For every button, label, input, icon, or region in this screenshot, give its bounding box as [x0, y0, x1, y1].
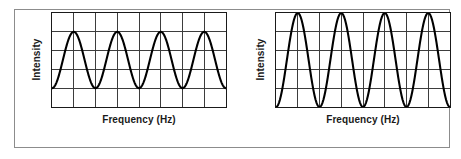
waveform-svg-left — [52, 13, 226, 107]
y-axis-label-left: Intensity — [27, 10, 45, 108]
figure-frame: Intensity Frequency (Hz) Intensity Frequ… — [14, 9, 450, 148]
x-axis-label-left: Frequency (Hz) — [51, 114, 227, 125]
chart-panel-left: Intensity Frequency (Hz) — [27, 10, 235, 147]
x-axis-label-right: Frequency (Hz) — [275, 114, 451, 125]
plot-area-left — [51, 12, 227, 108]
plot-area-right — [275, 12, 451, 108]
y-axis-label-right-text: Intensity — [255, 38, 266, 80]
chart-panel-right: Intensity Frequency (Hz) — [251, 10, 441, 147]
y-axis-label-left-text: Intensity — [31, 38, 42, 80]
waveform-svg-right — [276, 13, 450, 107]
y-axis-label-right: Intensity — [251, 10, 269, 108]
